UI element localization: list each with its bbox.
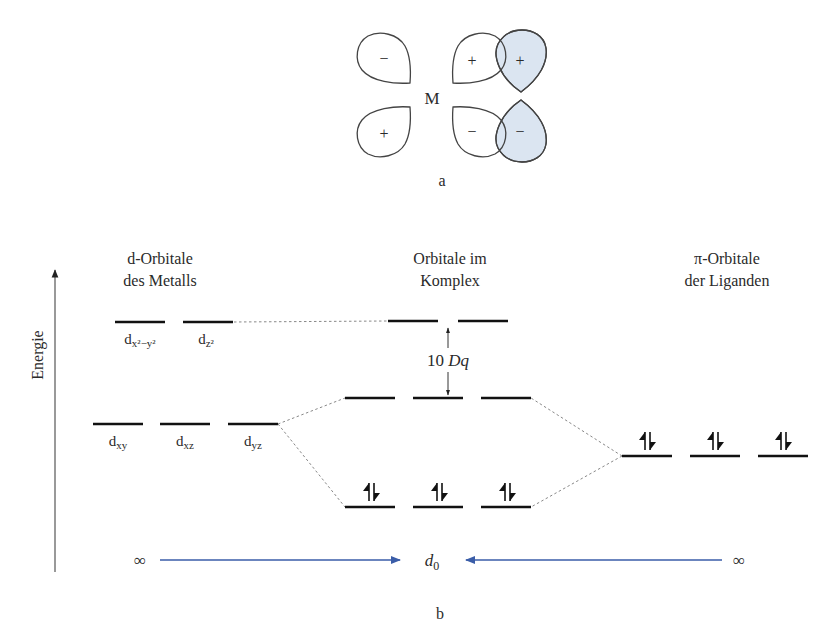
sign-upper-left: −: [379, 50, 388, 67]
figure-b-energy-diagram: Energie d-Orbitale des Metalls Orbitale …: [29, 250, 808, 622]
ligand-header-line1: π-Orbitale: [694, 250, 760, 267]
infinity-left-symbol: ∞: [134, 551, 146, 570]
electron-pair-icon: [499, 483, 516, 501]
distance-d0-label: d0: [425, 551, 440, 573]
complex-header-line1: Orbitale im: [413, 250, 487, 267]
metal-header-line2: des Metalls: [123, 272, 196, 289]
complex-header-line2: Komplex: [420, 272, 480, 290]
electron-pair-icon: [707, 432, 724, 450]
sign-lower-right-ligand: −: [515, 123, 524, 140]
electron-pair-icon: [639, 432, 656, 450]
electron-pair-icon: [431, 483, 448, 501]
correlation-ligand-to-bonding: [531, 456, 622, 507]
figure-a-label: a: [438, 172, 445, 189]
label-dx2-y2: dx²−y²: [124, 331, 156, 349]
splitting-label: 10 Dq: [427, 351, 470, 370]
electron-pair-icon: [363, 483, 380, 501]
metal-header-line1: d-Orbitale: [127, 250, 193, 267]
correlation-metal-to-bonding: [278, 424, 345, 507]
sign-upper-right-metal: +: [467, 52, 476, 69]
label-dxz: dxz: [176, 433, 194, 451]
metal-lobe-lower-right: [453, 107, 506, 157]
label-dz2: dz²: [198, 331, 214, 349]
label-dxy: dxy: [109, 433, 128, 451]
ligand-header-line2: der Liganden: [685, 272, 770, 290]
sign-lower-left: +: [379, 125, 388, 142]
figure-b-label: b: [436, 605, 444, 622]
figure-a-orbital-overlap: − + + + − − M a: [357, 30, 546, 189]
ligand-field-pi-bonding-diagram: − + + + − − M a Energie d-Orbitale des M…: [0, 0, 834, 641]
label-dyz: dyz: [244, 433, 262, 451]
electron-pair-icon: [775, 432, 792, 450]
correlation-ligand-to-antibonding: [531, 398, 622, 456]
sign-lower-right-metal: −: [467, 123, 476, 140]
correlation-metal-to-antibonding: [278, 398, 345, 424]
metal-lobe-upper-right: [453, 33, 506, 83]
infinity-right-symbol: ∞: [733, 551, 745, 570]
sign-upper-right-ligand: +: [515, 52, 524, 69]
energy-axis-label: Energie: [29, 330, 47, 379]
correlation-eg: [234, 321, 388, 322]
metal-center-label: M: [424, 89, 439, 108]
